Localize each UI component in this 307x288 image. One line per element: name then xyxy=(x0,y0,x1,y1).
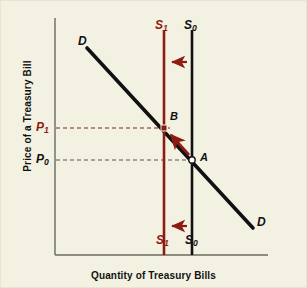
demand-top-label: D xyxy=(78,35,87,47)
figure-background xyxy=(1,1,307,288)
price-p1-label: P1 xyxy=(36,121,49,133)
point-a-marker xyxy=(189,157,195,163)
supply-s0-bottom-label: S0 xyxy=(185,234,198,246)
y-axis-title-wrapper: Price of a Treasury Bill xyxy=(17,46,35,186)
point-b-marker xyxy=(161,125,167,131)
chart-figure: S1 S0 S1 S0 D D B A P1 P0 Price of a Tre… xyxy=(0,0,307,288)
supply-s1-bottom-label: S1 xyxy=(156,234,169,246)
point-b-label: B xyxy=(170,111,178,122)
price-p0-label: P0 xyxy=(36,153,49,165)
demand-bottom-label: D xyxy=(257,216,266,228)
point-a-label: A xyxy=(200,152,208,163)
x-axis-title: Quantity of Treasury Bills xyxy=(91,270,216,281)
y-axis-title: Price of a Treasury Bill xyxy=(22,60,33,171)
supply-s0-top-label: S0 xyxy=(184,19,197,31)
x-axis-title-wrapper: Quantity of Treasury Bills xyxy=(0,265,307,283)
supply-s1-top-label: S1 xyxy=(155,19,168,31)
chart-plot-area xyxy=(0,0,307,288)
